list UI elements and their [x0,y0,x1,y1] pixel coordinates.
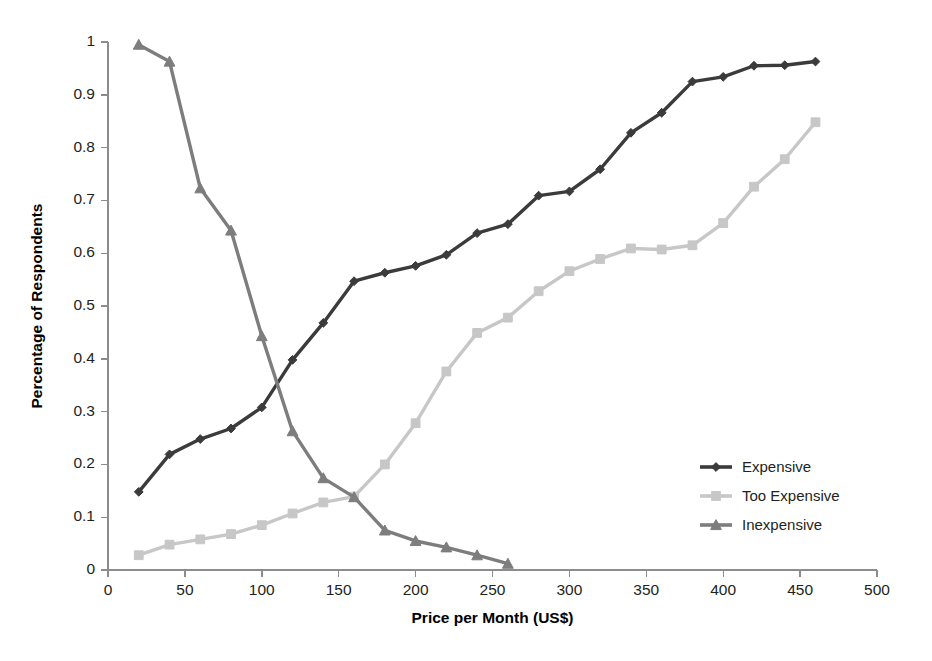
data-point-marker [565,267,574,276]
legend-label: Inexpensive [742,516,822,533]
data-point-marker [227,530,236,539]
legend-marker-diamond-icon [712,463,721,472]
data-point-marker [165,540,174,549]
y-tick-label: 0.1 [73,507,95,524]
data-point-marker [319,498,328,507]
x-tick-label: 500 [864,581,890,598]
x-tick-label: 0 [104,581,113,598]
y-axis-title: Percentage of Respondents [28,204,45,409]
x-axis-title: Price per Month (US$) [412,609,574,626]
legend-label: Expensive [742,458,811,475]
chart-legend: ExpensiveToo ExpensiveInexpensive [700,458,840,533]
series-line [139,62,816,492]
y-tick-label: 0.3 [73,402,95,419]
data-point-marker [287,426,298,436]
data-point-marker [750,182,759,191]
data-point-marker [780,155,789,164]
y-tick-label: 0.2 [73,454,95,471]
data-point-marker [780,61,789,70]
data-point-marker [442,367,451,376]
data-point-marker [596,255,605,264]
data-point-marker [503,313,512,322]
data-point-marker [411,419,420,428]
y-tick-label: 0.4 [73,349,95,366]
data-point-marker [473,329,482,338]
data-point-marker [134,551,143,560]
x-tick-label: 100 [249,581,275,598]
data-point-marker [750,61,759,70]
data-point-marker [133,39,144,49]
y-tick-label: 0.9 [73,85,95,102]
data-point-marker [719,72,728,81]
data-point-marker [688,241,697,250]
series-inexpensive [133,39,513,568]
data-point-marker [657,245,666,254]
y-tick-label: 0.7 [73,190,95,207]
data-point-marker [627,244,636,253]
data-point-marker [811,118,820,127]
data-series-group [133,39,820,568]
legend-marker-square-icon [712,492,721,501]
x-tick-label: 400 [710,581,736,598]
line-chart: 00.10.20.30.40.50.60.70.80.91 0501001502… [0,0,932,661]
y-tick-label: 0.8 [73,138,95,155]
data-point-marker [811,57,820,66]
y-tick-label: 1 [86,32,95,49]
series-line [139,45,508,564]
legend-item-inexpensive[interactable]: Inexpensive [700,516,822,533]
data-point-marker [195,183,206,193]
data-point-marker [534,287,543,296]
data-point-marker [288,509,297,518]
data-point-marker [257,521,266,530]
data-point-marker [719,219,728,228]
y-tick-label: 0.6 [73,243,95,260]
legend-label: Too Expensive [742,487,840,504]
x-tick-label: 450 [787,581,813,598]
x-tick-label: 150 [326,581,352,598]
series-line [139,122,816,555]
y-tick-label: 0 [86,560,95,577]
x-tick-label: 350 [633,581,659,598]
data-point-marker [196,535,205,544]
chart-figure: 00.10.20.30.40.50.60.70.80.91 0501001502… [0,0,932,661]
data-point-marker [380,460,389,469]
y-axis-ticks: 00.10.20.30.40.50.60.70.80.91 [73,32,108,577]
x-tick-label: 300 [556,581,582,598]
series-expensive [134,57,820,496]
data-point-marker [411,261,420,270]
x-tick-label: 50 [176,581,194,598]
y-tick-label: 0.5 [73,296,95,313]
x-tick-label: 250 [480,581,506,598]
data-point-marker [256,331,267,341]
data-point-marker [380,268,389,277]
x-tick-label: 200 [403,581,429,598]
x-axis-ticks: 050100150200250300350400450500 [104,570,891,598]
legend-item-too-expensive[interactable]: Too Expensive [700,487,840,504]
legend-item-expensive[interactable]: Expensive [700,458,811,475]
